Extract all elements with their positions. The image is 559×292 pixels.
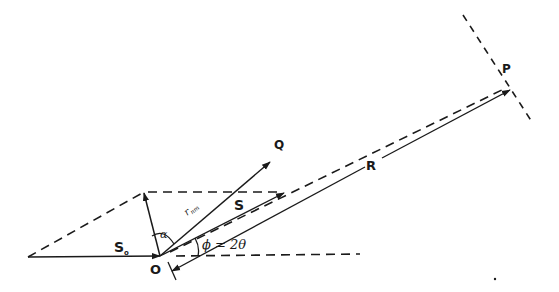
dashed-wavefront-at-P xyxy=(463,15,532,122)
label-alpha: α xyxy=(160,228,168,241)
vector-normal xyxy=(144,193,160,256)
vector-S0 xyxy=(28,256,160,257)
vector-diagram: P Q R S O S o r nm α ϕ = 2θ xyxy=(0,0,559,292)
label-S0-sub: o xyxy=(124,249,129,257)
vector-R-upper xyxy=(382,90,510,158)
label-phi: ϕ = 2θ xyxy=(202,237,246,252)
dashed-O-to-P xyxy=(170,88,506,252)
R-end-tick xyxy=(168,262,176,280)
label-S: S xyxy=(234,197,244,213)
label-R: R xyxy=(366,158,376,173)
stray-dot xyxy=(494,278,496,280)
dashed-left-diagonal xyxy=(28,192,144,257)
label-O: O xyxy=(150,262,161,277)
label-S0-main: S xyxy=(114,239,124,255)
label-Q: Q xyxy=(274,138,284,152)
phi-arc xyxy=(195,238,199,256)
label-r-nm: r nm xyxy=(181,200,200,219)
label-P: P xyxy=(502,62,511,76)
label-r-sub: nm xyxy=(188,204,200,216)
label-S0: S o xyxy=(114,239,129,257)
